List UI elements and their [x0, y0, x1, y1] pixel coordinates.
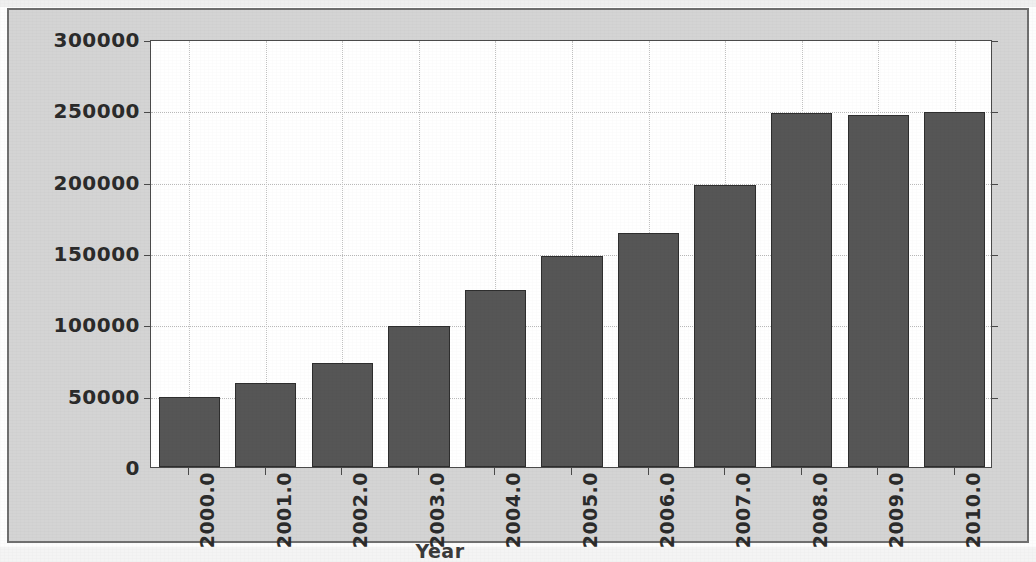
- plot-axes: [150, 40, 992, 468]
- y-tick-label: 250000: [54, 99, 141, 123]
- y-tick-label: 200000: [54, 171, 141, 195]
- y-tick-mark: [144, 41, 151, 42]
- y-tick-mark: [144, 255, 151, 256]
- y-tick-label: 300000: [54, 28, 141, 52]
- x-tick-label: 2002.0: [349, 472, 371, 548]
- x-tick-label: 2007.0: [732, 472, 754, 548]
- x-tick-label: 2004.0: [502, 472, 524, 548]
- bar: [848, 115, 909, 467]
- y-axis-tick-labels: 050000100000150000200000250000300000: [9, 40, 140, 468]
- bar: [541, 256, 602, 467]
- x-tick-label: 2010.0: [962, 472, 984, 548]
- scan-edge-top: [0, 0, 1036, 7]
- plot-area: [151, 41, 991, 467]
- y-tick-label: 150000: [54, 242, 141, 266]
- y-tick-mark: [144, 184, 151, 185]
- y-tick-mark-right: [991, 41, 998, 42]
- bar: [312, 363, 373, 467]
- x-tick-label: 2008.0: [809, 472, 831, 548]
- y-tick-mark-right: [991, 184, 998, 185]
- x-axis-title: Year: [150, 540, 730, 562]
- y-tick-mark-right: [991, 326, 998, 327]
- bar: [694, 185, 755, 467]
- y-tick-mark-right: [991, 398, 998, 399]
- x-axis-tick-labels: 2000.02001.02002.02003.02004.02005.02006…: [150, 472, 992, 542]
- y-tick-label: 50000: [68, 385, 140, 409]
- bar: [159, 397, 220, 467]
- y-tick-mark: [144, 112, 151, 113]
- x-tick-label: 2006.0: [656, 472, 678, 548]
- scanned-chart-page: 050000100000150000200000250000300000 200…: [0, 0, 1036, 562]
- bar: [771, 113, 832, 467]
- x-tick-label: 2000.0: [196, 472, 218, 548]
- bar: [388, 326, 449, 467]
- y-tick-mark-right: [991, 112, 998, 113]
- x-tick-label: 2001.0: [273, 472, 295, 548]
- x-tick-label: 2005.0: [579, 472, 601, 548]
- y-tick-mark: [144, 398, 151, 399]
- y-tick-label: 0: [126, 456, 140, 480]
- y-gridline: [151, 112, 991, 113]
- y-tick-label: 100000: [54, 313, 141, 337]
- bar: [618, 233, 679, 467]
- x-tick-label: 2003.0: [426, 472, 448, 548]
- bar: [924, 112, 985, 467]
- x-tick-label: 2009.0: [885, 472, 907, 548]
- y-tick-mark-right: [991, 255, 998, 256]
- y-tick-mark: [144, 326, 151, 327]
- matplotlib-figure: 050000100000150000200000250000300000 200…: [9, 10, 1027, 541]
- bar: [235, 383, 296, 467]
- bar: [465, 290, 526, 467]
